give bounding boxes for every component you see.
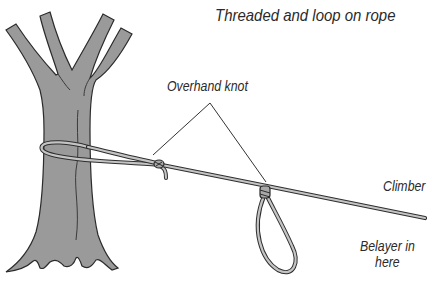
belayer-label: Belayer in here: [360, 238, 415, 270]
overhand-knot-loop: [260, 186, 270, 198]
overhand-knot-near-tree: [154, 160, 164, 168]
leader-lines: [153, 103, 266, 182]
overhand-knot-label: Overhand knot: [167, 78, 248, 94]
belayer-label-line1: Belayer in: [360, 238, 415, 254]
climber-label: Climber: [383, 178, 425, 194]
belay-loop: [258, 196, 296, 272]
belayer-label-line2: here: [360, 254, 415, 270]
diagram-title: Threaded and loop on rope: [215, 6, 395, 26]
